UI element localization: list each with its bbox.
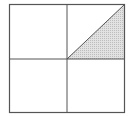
- quadrant-diagram: Square divided into four equal quadrants…: [0, 0, 130, 116]
- diagram-canvas: [0, 0, 130, 116]
